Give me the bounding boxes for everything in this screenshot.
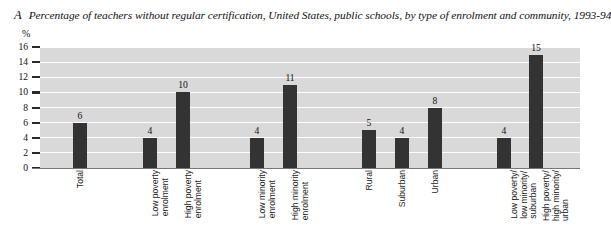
gridline [40,77,580,78]
y-axis-tick-label: 12 [18,71,28,82]
gridline [40,107,580,108]
x-axis-category-labels: TotalLow povertyenrolmentHigh povertyenr… [0,170,594,244]
bar[interactable] [283,85,297,168]
x-axis-category-label: Low poverty/low minority/suburban [510,170,539,219]
y-axis-tick-label: 10 [18,86,28,97]
bar-value-label: 4 [137,125,163,136]
gridline [40,62,580,63]
figure-letter: A [14,8,22,23]
bar-value-label: 4 [491,125,517,136]
y-axis-tick-mark [32,122,40,124]
figure-caption: A Percentage of teachers without regular… [14,8,586,26]
bar[interactable] [176,92,190,168]
x-axis-baseline [32,168,580,169]
chart-plot-area: 6410411548415 [40,47,580,168]
y-axis-tick-label: 6 [23,117,28,128]
y-axis-tick-mark [32,137,40,139]
x-axis-category-label: Total [76,170,86,188]
x-axis-category-label: Low povertyenrolment [151,170,170,216]
y-axis: 1614121086420 [0,47,40,168]
y-axis-tick-mark [32,107,40,109]
bar[interactable] [497,138,511,168]
y-axis-tick: 16 [0,47,40,48]
y-axis-unit-label: % [22,28,30,39]
bar[interactable] [143,138,157,168]
bar[interactable] [73,123,87,168]
gridline [40,92,580,93]
y-axis-tick-mark [32,61,40,63]
y-axis-tick: 12 [0,77,40,78]
figure-title: Percentage of teachers without regular c… [29,9,611,21]
x-axis-category-label: Suburban [398,170,408,207]
x-axis-category-label: Urban [431,170,441,193]
bar-value-label: 8 [422,95,448,106]
y-axis-tick-mark [32,91,40,93]
x-axis-category-label: High minorityenrolment [291,170,310,220]
x-axis-category-label: Rural [365,170,375,191]
y-axis-tick-mark [32,46,40,48]
bar[interactable] [395,138,409,168]
x-axis-category-label: High poverty/high minority/urban [542,170,571,221]
bar-value-label: 4 [244,125,270,136]
bar[interactable] [529,55,543,168]
y-axis-tick-label: 16 [18,41,28,52]
bar-value-label: 6 [67,110,93,121]
bar-value-label: 4 [389,125,415,136]
y-axis-tick: 14 [0,62,40,63]
bar[interactable] [362,130,376,168]
y-axis-tick: 10 [0,92,40,93]
y-axis-tick-label: 8 [23,102,28,113]
y-axis-tick-label: 2 [23,147,28,158]
y-axis-tick-mark [32,76,40,78]
bar[interactable] [428,108,442,169]
y-axis-tick-mark [32,152,40,154]
y-axis-tick: 6 [0,123,40,124]
bar-value-label: 5 [356,117,382,128]
x-axis-category-label: Low minorityenrolment [258,170,277,218]
gridline [40,122,580,123]
y-axis-tick: 2 [0,153,40,154]
bar-value-label: 11 [277,72,303,83]
y-axis-tick-label: 14 [18,56,28,67]
bar[interactable] [250,138,264,168]
bar-value-label: 10 [170,79,196,90]
x-axis-category-label: High povertyenrolment [184,170,203,218]
y-axis-tick: 4 [0,138,40,139]
gridline [40,47,580,48]
bar-value-label: 15 [523,42,549,53]
y-axis-tick: 8 [0,108,40,109]
y-axis-tick-label: 4 [23,132,28,143]
